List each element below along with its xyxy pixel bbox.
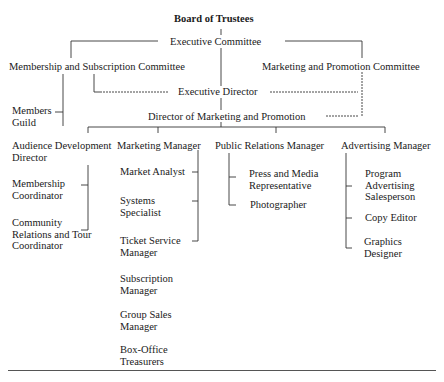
node-membership-subscription-committee: Membership and Subscription Committee xyxy=(9,61,185,73)
node-subscription-manager: Subscription Manager xyxy=(120,273,190,296)
node-public-relations-manager: Public Relations Manager xyxy=(215,140,324,152)
node-box-office-treasurers: Box-Office Treasurers xyxy=(120,344,190,367)
node-director-marketing-promotion: Director of Marketing and Promotion xyxy=(148,111,305,123)
node-executive-director: Executive Director xyxy=(178,86,258,98)
node-marketing-promotion-committee: Marketing and Promotion Committee xyxy=(262,61,420,73)
node-board-of-trustees: Board of Trustees xyxy=(174,13,254,25)
node-market-analyst: Market Analyst xyxy=(120,166,185,178)
node-executive-committee: Executive Committee xyxy=(170,36,261,48)
node-group-sales-manager: Group Sales Manager xyxy=(120,309,190,332)
node-copy-editor: Copy Editor xyxy=(365,212,417,224)
node-press-media-representative: Press and Media Representative xyxy=(249,168,349,191)
node-photographer: Photographer xyxy=(250,199,307,211)
node-ticket-service-manager: Ticket Service Manager xyxy=(120,235,190,258)
node-advertising-manager: Advertising Manager xyxy=(341,140,431,152)
node-audience-development-director: Audience Development Director xyxy=(12,140,122,163)
node-membership-coordinator: Membership Coordinator xyxy=(12,178,82,201)
node-graphics-designer: Graphics Designer xyxy=(364,236,424,259)
bottom-rule xyxy=(8,370,436,371)
node-marketing-manager: Marketing Manager xyxy=(117,140,201,152)
node-systems-specialist: Systems Specialist xyxy=(120,195,180,218)
node-program-advertising-salesperson: Program Advertising Salesperson xyxy=(365,168,435,203)
node-community-relations-tour-coordinator: Community Relations and Tour Coordinator xyxy=(12,217,94,252)
node-members-guild: Members Guild xyxy=(12,105,62,128)
